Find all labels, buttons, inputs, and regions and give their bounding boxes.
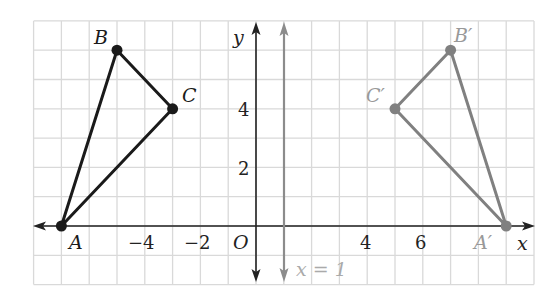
x-tick-label-6: 6	[415, 232, 426, 253]
x-tick-label-neg2: −2	[184, 232, 211, 253]
point-label-c: C	[182, 84, 197, 106]
x-tick-label-neg4: −4	[128, 232, 155, 253]
y-tick-label-4: 4	[238, 99, 249, 120]
y-axis-label: y	[232, 26, 244, 48]
point-label-c-prime: C′	[366, 84, 386, 106]
y-tick-label-2: 2	[238, 158, 249, 179]
point-label-b: B	[93, 26, 108, 48]
vertex-dot	[390, 103, 401, 114]
vertex-dot	[56, 221, 67, 232]
point-label-b-prime: B′	[453, 24, 473, 46]
coordinate-plane: y x O −4 −2 4 6 2 4 A B C A′ B′ C′ x = 1	[0, 0, 560, 294]
reflection-line-label: x = 1	[296, 258, 347, 280]
vertex-dot	[112, 45, 123, 56]
vertex-dot	[445, 45, 456, 56]
point-label-a-prime: A′	[472, 231, 493, 253]
origin-label: O	[233, 231, 249, 253]
x-tick-label-4: 4	[360, 232, 371, 253]
vertex-dot	[167, 103, 178, 114]
vertex-dot	[501, 221, 512, 232]
point-label-a: A	[67, 231, 83, 253]
x-axis-label: x	[517, 232, 528, 254]
